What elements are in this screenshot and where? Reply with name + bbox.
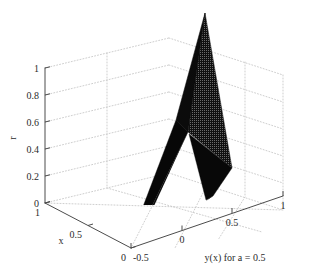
z-tick-label: 0.8 [27,90,40,101]
y-axis-label: y(x) for a = 0.5 [205,252,266,264]
y-tick-label: 1 [281,200,286,211]
x-axis-label: x [59,235,64,246]
y-tick-label: 0 [180,234,185,245]
z-tick-label: 0.4 [27,144,40,155]
figure-background [0,0,311,273]
x-tick-label: 0.5 [70,229,83,240]
x-tick-label: 0 [121,252,126,263]
z-tick-label: 0.2 [27,171,40,182]
z-tick-label: 0.6 [27,117,40,128]
z-tick-label: 1 [34,63,39,74]
y-tick-label: 0.5 [226,217,239,228]
y-tick-label: -0.5 [133,252,149,263]
x-tick-label: 1 [35,207,40,218]
surface-plot-figure: 1 0.8 0.6 0.4 0.2 0 1 0.5 0 -0.5 0 0.5 1… [0,0,311,273]
plot-root: 1 0.8 0.6 0.4 0.2 0 1 0.5 0 -0.5 0 0.5 1… [0,0,311,273]
